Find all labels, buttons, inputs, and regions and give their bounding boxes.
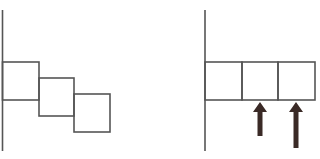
diagram-canvas	[0, 0, 320, 159]
right-box-1	[205, 62, 242, 100]
right-up-arrow-icon-1	[253, 102, 267, 136]
right-up-arrow-icon-2	[289, 102, 303, 148]
right-box-3	[278, 62, 315, 100]
right-box-2	[242, 62, 278, 100]
left-box-2	[39, 78, 74, 116]
left-box-3	[74, 94, 110, 132]
right-panel-aligned-boxes	[205, 10, 315, 151]
left-box-1	[3, 62, 40, 100]
left-panel-staggered-boxes	[3, 10, 111, 151]
